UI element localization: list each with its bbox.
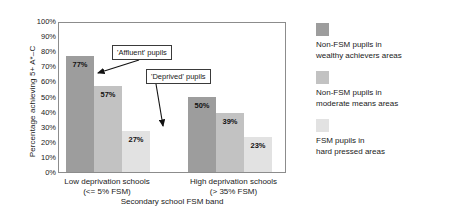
chart-figure: Percentage achieving 5+ A*–C 100% 90% 80…	[0, 0, 454, 217]
bar-value-label: 23%	[244, 141, 272, 150]
bar-value-label: 50%	[188, 101, 216, 110]
x-category-line2: (> 35% FSM)	[181, 187, 286, 197]
callout-affluent-pupils: 'Affluent' pupils	[112, 45, 172, 60]
legend-label-line1: FSM pupils in	[316, 136, 452, 147]
y-tick-label: 30%	[22, 124, 56, 132]
y-tick-label: 20%	[22, 139, 56, 147]
x-category-line1: High deprivation schools	[181, 177, 286, 187]
bar-group2-series2: 39%	[216, 113, 244, 172]
legend-swatch-icon	[316, 71, 329, 84]
plot-area: 77% 57% 27% 50% 39% 23%	[58, 22, 286, 173]
bar-group1-series2: 57%	[94, 86, 122, 172]
y-tick-label: 70%	[22, 63, 56, 71]
legend-item-hard-pressed: FSM pupils in hard pressed areas	[316, 118, 452, 157]
legend-item-label: Non-FSM pupils in moderate means areas	[316, 88, 452, 109]
legend-item-wealthy-achievers: Non-FSM pupils in wealthy achievers area…	[316, 22, 452, 61]
legend-item-label: Non-FSM pupils in wealthy achievers area…	[316, 40, 452, 61]
y-tick-label: 40%	[22, 109, 56, 117]
legend-label-line2: hard pressed areas	[316, 147, 452, 158]
x-category-line2: (<= 5% FSM)	[58, 187, 156, 197]
legend-swatch-icon	[316, 119, 329, 132]
y-tick-label: 90%	[22, 33, 56, 41]
x-category-label-high-deprivation: High deprivation schools (> 35% FSM)	[181, 177, 286, 197]
bar-value-label: 77%	[66, 60, 94, 69]
y-tick-label: 80%	[22, 48, 56, 56]
bar-value-label: 39%	[216, 117, 244, 126]
x-category-line1: Low deprivation schools	[58, 177, 156, 187]
legend-swatch-icon	[316, 23, 329, 36]
y-axis-tick-labels: 100% 90% 80% 70% 60% 50% 40% 30% 20% 10%…	[22, 22, 56, 173]
x-axis-title: Secondary school FSM band	[58, 197, 286, 206]
bar-group2-series3: 23%	[244, 137, 272, 172]
y-tick-label: 100%	[22, 18, 56, 26]
legend-label-line2: wealthy achievers areas	[316, 51, 452, 62]
legend-item-moderate-means: Non-FSM pupils in moderate means areas	[316, 70, 452, 109]
legend-label-line1: Non-FSM pupils in	[316, 40, 452, 51]
y-tick-label: 0%	[22, 169, 56, 177]
bar-value-label: 27%	[122, 135, 150, 144]
legend-label-line1: Non-FSM pupils in	[316, 88, 452, 99]
y-tick-label: 50%	[22, 94, 56, 102]
bar-group2-series1: 50%	[188, 97, 216, 173]
chart-legend: Non-FSM pupils in wealthy achievers area…	[316, 22, 452, 166]
bar-value-label: 57%	[94, 90, 122, 99]
callout-deprived-pupils: 'Deprived' pupils	[146, 69, 211, 84]
bar-group1-series1: 77%	[66, 56, 94, 172]
bars-container: 77% 57% 27% 50% 39% 23%	[59, 23, 285, 172]
y-tick-label: 60%	[22, 78, 56, 86]
legend-label-line2: moderate means areas	[316, 99, 452, 110]
bar-group1-series3: 27%	[122, 131, 150, 172]
x-category-label-low-deprivation: Low deprivation schools (<= 5% FSM)	[58, 177, 156, 197]
legend-item-label: FSM pupils in hard pressed areas	[316, 136, 452, 157]
y-tick-label: 10%	[22, 154, 56, 162]
